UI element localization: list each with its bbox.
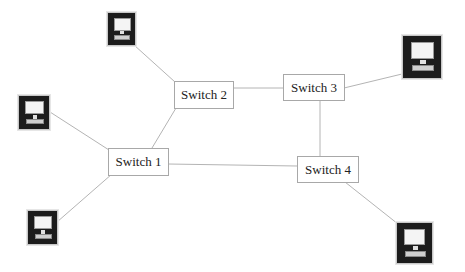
computer-icon[interactable]	[27, 210, 58, 245]
keyboard-icon	[35, 234, 52, 239]
switch-2-label: Switch 2	[181, 87, 227, 103]
computer-icon[interactable]	[107, 12, 136, 46]
computer-icon[interactable]	[396, 222, 433, 264]
keyboard-icon	[114, 35, 130, 40]
link-sw2-sw1	[152, 108, 176, 148]
monitor-screen-icon	[404, 229, 425, 245]
link-sw1-sw4	[168, 164, 297, 166]
monitor-screen-icon	[34, 216, 52, 229]
monitor-stand-icon	[420, 60, 426, 64]
computer-icon[interactable]	[18, 95, 50, 130]
monitor-stand-icon	[120, 31, 124, 34]
switch-3[interactable]: Switch 3	[283, 74, 345, 101]
link-sw3-pc-top-right	[344, 74, 402, 88]
keyboard-icon	[412, 65, 434, 71]
link-pc-left-sw1	[50, 112, 109, 150]
link-pc-top-sw2	[134, 45, 175, 82]
monitor-stand-icon	[413, 246, 418, 250]
switch-4[interactable]: Switch 4	[297, 156, 359, 183]
switch-4-label: Switch 4	[305, 162, 351, 178]
monitor-screen-icon	[411, 42, 434, 59]
monitor-screen-icon	[114, 18, 131, 31]
link-pc-bottom-left-sw1	[57, 174, 112, 222]
switch-3-label: Switch 3	[291, 80, 337, 96]
switch-1-label: Switch 1	[116, 154, 162, 170]
keyboard-icon	[26, 119, 44, 124]
switch-1[interactable]: Switch 1	[108, 148, 169, 176]
computer-icon[interactable]	[402, 35, 442, 79]
link-sw4-pc-bottom-right	[345, 182, 398, 224]
monitor-screen-icon	[25, 101, 44, 114]
switch-2[interactable]: Switch 2	[174, 81, 234, 109]
keyboard-icon	[405, 251, 426, 257]
